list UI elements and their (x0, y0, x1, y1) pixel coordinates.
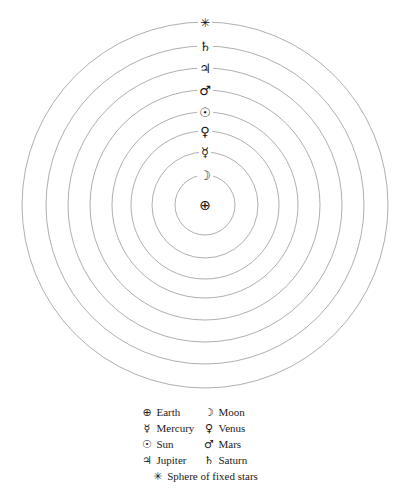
body-marker-moon: ☽ (197, 167, 213, 183)
legend-label: Jupiter (157, 452, 203, 468)
moon-crescent-symbol: ☽ (203, 405, 216, 421)
mars-symbol: ♂ (199, 84, 211, 97)
sun-symbol: ☉ (141, 437, 154, 453)
mars-symbol: ♂ (203, 437, 216, 453)
legend-label: Moon (219, 404, 245, 420)
legend-label: Venus (219, 420, 246, 436)
legend-label: Mars (219, 436, 242, 452)
mercury-symbol: ☿ (201, 146, 209, 159)
legend-entry-saturn: ♄Saturn (203, 452, 285, 469)
legend-entry-moon: ☽Moon (203, 404, 285, 421)
moon-crescent-symbol: ☽ (199, 169, 211, 182)
legend-label: Saturn (219, 452, 248, 468)
legend-entry-earth: ⊕Earth (125, 404, 203, 421)
jupiter-symbol: ♃ (199, 62, 211, 75)
fixed-stars-symbol: ✳ (151, 469, 164, 485)
cosmos-figure: ☽☿♀☉♂♃♄✳⊕ ⊕Earth☽Moon☿Mercury♀Venus☉Sun♂… (0, 0, 409, 489)
body-marker-mars: ♂ (197, 82, 213, 98)
body-marker-mercury: ☿ (199, 144, 211, 160)
saturn-symbol: ♄ (203, 453, 216, 469)
body-marker-sun: ☉ (197, 104, 213, 120)
venus-symbol: ♀ (200, 125, 210, 138)
legend-grid: ⊕Earth☽Moon☿Mercury♀Venus☉Sun♂Mars♃Jupit… (125, 404, 285, 484)
body-marker-earth: ⊕ (197, 197, 213, 213)
body-marker-venus: ♀ (198, 123, 212, 139)
jupiter-symbol: ♃ (141, 453, 154, 469)
legend-entry-mars: ♂Mars (203, 436, 285, 453)
legend-entry-jupiter: ♃Jupiter (125, 452, 203, 469)
legend-entry-mercury: ☿Mercury (125, 420, 203, 437)
venus-symbol: ♀ (203, 421, 216, 437)
orbit-diagram: ☽☿♀☉♂♃♄✳⊕ (0, 0, 409, 405)
legend: ⊕Earth☽Moon☿Mercury♀Venus☉Sun♂Mars♃Jupit… (0, 404, 409, 489)
legend-label: Mercury (157, 420, 203, 436)
body-marker-jupiter: ♃ (197, 60, 213, 76)
legend-entry-sphere-of-fixed-stars: ✳Sphere of fixed stars (125, 468, 285, 485)
earth-symbol: ⊕ (141, 405, 154, 421)
legend-entry-sun: ☉Sun (125, 436, 203, 453)
sun-symbol: ☉ (199, 106, 211, 119)
legend-label: Earth (157, 404, 203, 420)
legend-entry-venus: ♀Venus (203, 420, 285, 437)
fixed-stars-symbol: ✳ (200, 17, 210, 29)
saturn-symbol: ♄ (199, 40, 211, 53)
earth-symbol: ⊕ (199, 198, 211, 212)
legend-label: Sphere of fixed stars (167, 468, 258, 484)
legend-label: Sun (157, 436, 203, 452)
mercury-symbol: ☿ (141, 421, 154, 437)
body-marker-saturn: ♄ (197, 38, 213, 54)
body-marker-stars: ✳ (198, 14, 212, 30)
